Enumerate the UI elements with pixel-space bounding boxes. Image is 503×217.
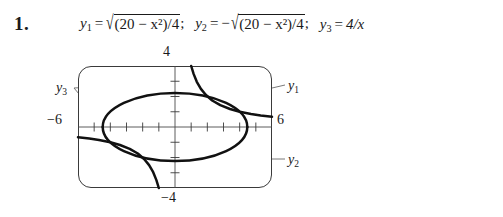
curve-callout-y3-subscript: 3 (62, 87, 67, 97)
viewport-label-xmax: 6 (277, 112, 284, 128)
equation-y3-rhs: 4/x (346, 16, 364, 32)
radical-y1: √(20 − x²)/4 (106, 15, 180, 35)
equation-line: y1=√(20 − x²)/4; y2=−√(20 − x²)/4; y3=4/… (80, 15, 364, 35)
equation-y3-equals: = (331, 16, 345, 32)
equation-y1-equals: = (92, 15, 106, 31)
curve-callout-y1: y1 (288, 78, 299, 95)
viewport-label-ymax: 4 (163, 44, 170, 60)
equation-y1-radicand: (20 − x²)/4 (114, 14, 181, 33)
equation-y2-radicand: (20 − x²)/4 (238, 14, 305, 33)
exercise-number: 1. (14, 13, 29, 35)
equation-y2-terminator: ; (305, 15, 316, 31)
graphing-calculator-viewport (78, 66, 272, 188)
curve-y3-branch-quadrant-3 (78, 137, 159, 188)
curve-callout-y1-subscript: 1 (294, 85, 299, 95)
equation-y2: y2=−√(20 − x²)/4; (195, 15, 316, 35)
equation-y2-equals: = (207, 15, 221, 31)
curve-callout-y2: y2 (288, 152, 299, 169)
equation-y2-sign: − (221, 15, 230, 31)
equation-y1: y1=√(20 − x²)/4; (80, 15, 191, 35)
equation-y2-var: y (195, 15, 202, 31)
radical-y2: √(20 − x²)/4 (231, 15, 305, 35)
viewport-label-xmin: −6 (47, 112, 62, 128)
plot-area (78, 66, 272, 188)
curve-y3-branch-quadrant-1 (191, 66, 272, 117)
equation-y1-terminator: ; (180, 15, 191, 31)
viewport-label-ymin: −4 (161, 190, 176, 206)
equation-y1-subscript: 1 (87, 22, 92, 33)
equation-y1-var: y (80, 15, 87, 31)
curve-callout-y3: y3 (56, 80, 67, 97)
curve-callout-y2-subscript: 2 (294, 159, 299, 169)
equation-y3: y3=4/x (320, 16, 365, 34)
